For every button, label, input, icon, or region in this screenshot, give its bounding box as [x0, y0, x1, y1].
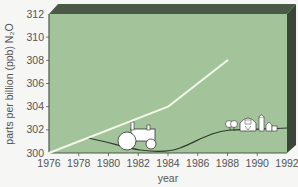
x-tick-label: 1978: [67, 157, 91, 169]
frame-right-bevel: [287, 4, 296, 153]
frame-top-bevel: [49, 4, 296, 14]
x-tick-label: 1988: [216, 157, 240, 169]
x-tick-label: 1984: [156, 157, 180, 169]
y-tick-label: 306: [26, 77, 44, 89]
x-tick-label: 1990: [246, 157, 270, 169]
y-tick-label: 302: [26, 123, 44, 135]
x-tick-label: 1976: [37, 157, 61, 169]
n2o-chart: 300302304306308310312 197619781980198219…: [0, 0, 298, 187]
x-axis-label: year: [158, 172, 179, 184]
y-tick-label: 304: [26, 100, 44, 112]
x-tick-label: 1982: [127, 157, 151, 169]
y-tick-label: 312: [26, 8, 44, 20]
y-tick-label: 308: [26, 54, 44, 66]
x-tick-label: 1992: [275, 157, 298, 169]
y-tick-label: 310: [26, 31, 44, 43]
plot-area: [49, 14, 287, 153]
x-tick-label: 1986: [186, 157, 210, 169]
y-axis-label: parts per billion (ppb) N₂O: [3, 23, 15, 144]
x-tick-label: 1980: [97, 157, 121, 169]
